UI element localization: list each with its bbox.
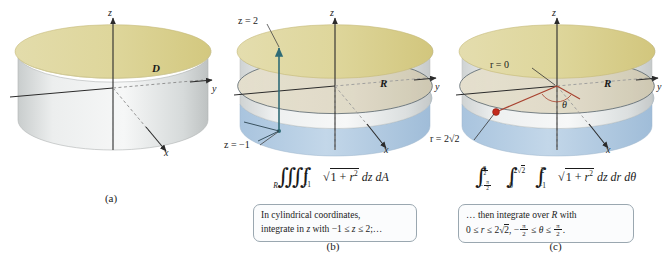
panel-b-illustration xyxy=(222,0,444,175)
note-c-line2: 0 ≤ r ≤ 2√2, −π2 ≤ θ ≤ π2. xyxy=(466,223,626,238)
radical-c: √1 + r2 xyxy=(558,168,594,185)
axis-label-z: z xyxy=(108,8,112,18)
formula-c: ∫π2−π2∫2√20∫2−1√1 + r2 dz dr dθ xyxy=(444,168,667,185)
cylinder-diagram-b xyxy=(222,0,444,175)
r-outer-label: r = 2√2 xyxy=(430,134,459,144)
note-box-c: … then integrate over R with 0 ≤ r ≤ 2√2… xyxy=(458,204,634,243)
figure-panel-c: z y x R r = 0 r = 2√2 θ ∫π2−π2∫2√20∫2−1√… xyxy=(444,0,667,263)
formula-b-differentials: dz dA xyxy=(362,170,389,184)
figure-panel-b: z y x R z = 2 z = −1 ∭R∫2−1√1 + r2 dz dA… xyxy=(222,0,444,263)
axis-label-x: x xyxy=(606,145,610,155)
radical-b: √1 + r2 xyxy=(323,168,359,185)
note-c-line1: … then integrate over R with xyxy=(466,209,626,223)
panel-caption-a: (a) xyxy=(0,192,222,204)
z-lower-limit-label: z = −1 xyxy=(224,140,250,150)
figure-panel-a: z y x D (a) xyxy=(0,0,222,263)
axis-label-z: z xyxy=(330,8,334,18)
formula-b-integrand: 1 + r2 xyxy=(330,168,359,185)
region-label-R: R xyxy=(604,78,611,89)
solid-region-label-D: D xyxy=(152,63,160,74)
formula-c-integrand: 1 + r2 xyxy=(565,168,594,185)
formula-c-z-lower: −1 xyxy=(538,181,546,190)
axis-label-y: y xyxy=(657,82,661,92)
panel-caption-b: (b) xyxy=(222,240,444,252)
axis-label-z: z xyxy=(552,8,556,18)
panel-c-illustration xyxy=(444,0,667,175)
formula-c-z-upper: 2 xyxy=(540,166,544,175)
formula-c-theta-upper: π2 xyxy=(480,166,489,175)
axis-label-y: y xyxy=(212,84,216,94)
axis-label-x: x xyxy=(384,145,388,155)
panel-a-illustration xyxy=(0,0,222,175)
panel-caption-c: (c) xyxy=(444,240,667,252)
axis-label-x: x xyxy=(164,148,168,158)
region-label-R: R xyxy=(380,78,387,89)
formula-c-differentials: dz dr dθ xyxy=(597,170,636,184)
theta-angle-label: θ xyxy=(562,100,567,110)
r-origin-label: r = 0 xyxy=(490,60,509,70)
formula-b-inner-lower: −1 xyxy=(303,180,311,189)
note-b-line1: In cylindrical coordinates, xyxy=(261,209,409,223)
cylinder-diagram-c xyxy=(444,0,667,175)
formula-b-outer-subscript: R xyxy=(273,181,278,190)
formula-b-inner-upper: 2 xyxy=(304,167,308,176)
formula-c-theta-lower: −π2 xyxy=(479,181,492,190)
cylinder-diagram-a xyxy=(0,0,222,175)
note-b-line2: integrate in z with −1 ≤ z ≤ 2;… xyxy=(261,223,409,237)
formula-c-r-upper: 2√2 xyxy=(514,166,526,175)
note-box-b: In cylindrical coordinates, integrate in… xyxy=(253,204,417,242)
formula-c-r-lower: 0 xyxy=(509,181,513,190)
z-upper-limit-label: z = 2 xyxy=(238,16,258,26)
formula-b: ∭R∫2−1√1 + r2 dz dA xyxy=(222,168,444,185)
axis-label-y: y xyxy=(435,82,439,92)
